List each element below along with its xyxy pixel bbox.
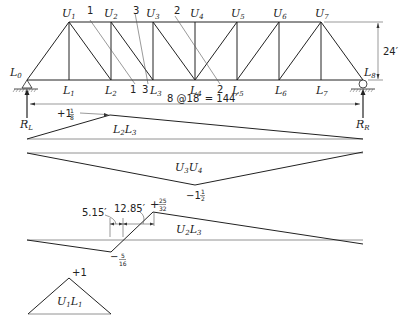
member-label-u2l3: U2L3: [176, 223, 202, 237]
peak-frac-num-u3u4: 1: [201, 188, 205, 195]
diagonal-u3l4: [153, 22, 195, 80]
reaction-arrow-right: [361, 89, 366, 118]
member-label-u1l1: U1L1: [57, 295, 83, 309]
end-post-right: [321, 22, 363, 80]
section-label-3-top: 3: [133, 5, 139, 16]
diagonal-l4u5: [195, 22, 237, 80]
pos-frac-den-u2l3: 32: [159, 205, 167, 212]
node-label-u7: U7: [315, 7, 329, 21]
section-label-1-top: 1: [87, 5, 93, 16]
neg-frac-den-u2l3: 16: [119, 260, 127, 267]
node-label-l7: L7: [315, 84, 328, 98]
diagonal-u1l2: [69, 22, 111, 80]
reaction-arrow-left: [25, 89, 30, 118]
node-label-u6: U6: [273, 7, 287, 21]
section-line-2: [175, 16, 220, 84]
neg-sign-u2l3: −: [110, 251, 118, 262]
node-label-u4: U4: [190, 7, 204, 21]
reaction-label-right: RR: [355, 118, 370, 132]
node-label-u2: U2: [104, 7, 118, 21]
member-label-u3u4: U3U4: [175, 161, 203, 175]
pos-sign-u2l3: +: [150, 198, 159, 211]
leader-5-15: [105, 215, 116, 224]
node-label-l3: L3: [149, 84, 162, 98]
curve-l2l3: [27, 115, 363, 139]
section-line-1: [90, 20, 135, 84]
influence-line-u3u4: U3U4 −1 1 2: [27, 152, 363, 202]
dim-label-5-15: 5.15′: [82, 207, 107, 218]
peak-label-u3u4: −1: [186, 190, 201, 201]
node-label-l2: L2: [104, 84, 117, 98]
leader-l2l3: [80, 113, 106, 115]
node-label-u3: U3: [146, 7, 160, 21]
influence-line-l2l3: +1 1 8 L2L3: [27, 107, 363, 139]
neg-frac-num-u2l3: 5: [121, 252, 125, 259]
section-line-3: [135, 13, 148, 84]
node-label-l8: L8: [363, 66, 376, 80]
diagonal-u2l3: [111, 22, 153, 80]
end-post-left: [27, 22, 69, 80]
node-label-u5: U5: [231, 7, 245, 21]
span-label: 8 @18′ = 144′: [167, 93, 238, 104]
diagonal-l5u6: [237, 22, 279, 80]
influence-line-u2l3: 5.15′ 12.85′ + 25 32 − 5 16 U2L3: [27, 197, 363, 267]
height-label: 24′: [383, 46, 399, 57]
roller-support-right: [350, 80, 375, 92]
node-label-l1: L1: [62, 84, 75, 98]
section-label-2-top: 2: [174, 5, 180, 16]
node-label-l6: L6: [274, 84, 287, 98]
reaction-label-left: RL: [19, 118, 33, 132]
dim-label-12-85: 12.85′: [114, 203, 146, 214]
node-label-u1: U1: [62, 7, 76, 21]
influence-line-u1l1: +1 U1L1: [28, 267, 111, 314]
diagonal-l6u7: [279, 22, 321, 80]
pos-frac-num-u2l3: 25: [159, 197, 167, 204]
peak-label-u1l1: +1: [72, 267, 87, 278]
pin-support-left: [13, 80, 38, 92]
peak-frac-den-u3u4: 2: [201, 195, 205, 202]
truss-diagram: U1 U2 U3 U4 U5 U6 U7 L0 L1 L2 L3 L4 L5 L…: [0, 0, 404, 324]
member-label-l2l3: L2L3: [112, 123, 137, 137]
section-label-1-bottom: 1: [130, 84, 136, 95]
node-label-l0: L0: [9, 66, 22, 80]
peak-frac-num-l2l3: 1: [70, 107, 74, 114]
section-label-3-bottom: 3: [142, 84, 148, 95]
peak-frac-den-l2l3: 8: [70, 114, 74, 121]
